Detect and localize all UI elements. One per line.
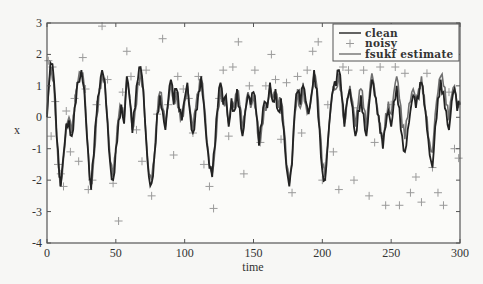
x-tick-label: 250 [382, 246, 400, 260]
x-tick-label: 100 [176, 246, 194, 260]
x-tick-label: 0 [44, 246, 50, 260]
y-tick-label: -1 [32, 142, 42, 156]
y-axis-label: x [14, 123, 20, 137]
x-tick-label: 50 [110, 246, 122, 260]
y-tick-label: -4 [32, 236, 42, 250]
y-tick-label: -2 [32, 173, 42, 187]
time-series-chart: 050100150200250300 3210-1-2-3-4 time x c… [0, 0, 483, 284]
y-tick-label: 3 [36, 16, 42, 30]
x-axis-label: time [242, 260, 263, 274]
legend-estimate-label: fsukf estimate [365, 48, 454, 60]
x-tick-label: 200 [313, 246, 331, 260]
x-tick-label: 300 [451, 246, 469, 260]
legend: clean noisy fsukf estimate [333, 24, 459, 61]
x-tick-label: 150 [245, 246, 263, 260]
y-tick-label: 1 [36, 79, 42, 93]
y-tick-label: 0 [36, 110, 42, 124]
y-tick-label: -3 [32, 205, 42, 219]
y-tick-label: 2 [36, 47, 42, 61]
